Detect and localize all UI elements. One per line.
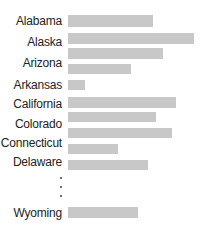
bar	[68, 97, 176, 108]
bar	[68, 33, 194, 44]
bar	[68, 207, 138, 218]
bar	[68, 128, 172, 138]
bar	[68, 160, 148, 170]
label-delaware: Delaware	[13, 155, 62, 169]
label-alaska: Alaska	[27, 35, 62, 49]
bar	[68, 15, 153, 27]
bar	[68, 144, 118, 154]
ellipsis-dot	[60, 177, 62, 179]
bar	[68, 48, 163, 59]
label-california: California	[13, 97, 62, 111]
ellipsis-dot	[60, 186, 62, 188]
label-alabama: Alabama	[16, 14, 62, 28]
label-wyoming: Wyoming	[13, 206, 62, 220]
label-arkansas: Arkansas	[14, 78, 62, 92]
bar	[68, 80, 85, 90]
label-colorado: Colorado	[15, 117, 62, 131]
bar	[68, 64, 131, 74]
ellipsis-dot	[60, 195, 62, 197]
bar	[68, 112, 156, 122]
label-arizona: Arizona	[23, 56, 62, 70]
label-connecticut: Connecticut	[1, 136, 62, 150]
